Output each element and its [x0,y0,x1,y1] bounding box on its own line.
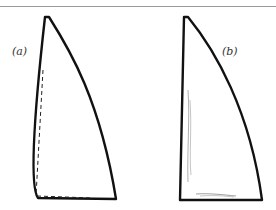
panel-b-label: (b) [222,45,238,58]
panel-a-label: (a) [12,45,27,58]
sail-a [34,17,116,199]
sail-b [180,17,262,200]
sail-figure [0,0,276,210]
